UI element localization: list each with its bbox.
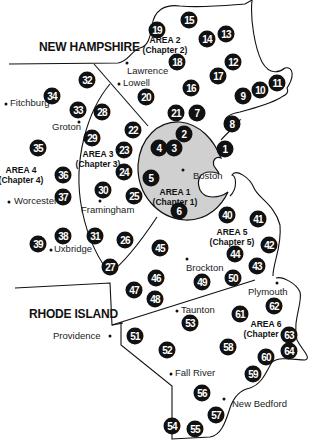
town-dot-uxbridge [50,249,53,252]
site-marker-20[interactable]: 20 [138,89,155,106]
massachusetts-region-map: NEW HAMPSHIRE RHODE ISLAND AREA 2(Chapte… [0,0,318,442]
area-label-4: AREA 4(Chapter 4) [0,166,43,186]
town-label-brockton: Brockton [186,263,224,273]
town-dot-fitchburg [5,103,8,106]
site-marker-56[interactable]: 56 [194,385,211,402]
site-marker-42[interactable]: 42 [261,237,278,254]
site-marker-63[interactable]: 63 [281,327,298,344]
town-label-providence: Providence [53,331,101,341]
town-dot-framingham [99,200,102,203]
site-marker-50[interactable]: 50 [225,270,242,287]
site-marker-64[interactable]: 64 [281,343,298,360]
area-label-3: AREA 3(Chapter 3) [76,150,121,170]
site-marker-59[interactable]: 59 [245,366,262,383]
site-marker-41[interactable]: 41 [250,211,267,228]
town-label-framingham: Framingham [81,205,134,215]
site-marker-24[interactable]: 24 [116,164,133,181]
town-dot-lowell [118,83,121,86]
site-marker-11[interactable]: 11 [269,75,286,92]
site-marker-62[interactable]: 62 [266,298,283,315]
site-marker-13[interactable]: 13 [218,26,235,43]
town-label-plymouth: Plymouth [248,287,288,297]
site-marker-57[interactable]: 57 [208,407,225,424]
town-label-worcester: Worcester [14,196,57,206]
site-marker-51[interactable]: 51 [127,328,144,345]
site-marker-29[interactable]: 29 [84,130,101,147]
state-label-rhode-island: RHODE ISLAND [29,307,118,321]
area-label-2: AREA 2(Chapter 2) [143,36,188,56]
site-marker-9[interactable]: 9 [235,88,252,105]
site-marker-58[interactable]: 58 [220,339,237,356]
town-dot-boston [182,169,185,172]
site-marker-49[interactable]: 49 [194,274,211,291]
town-label-boston: Boston [193,171,223,181]
site-marker-60[interactable]: 60 [258,349,275,366]
site-marker-55[interactable]: 55 [187,421,204,438]
town-label-lowell: Lowell [123,78,150,88]
site-marker-26[interactable]: 26 [117,232,134,249]
site-marker-40[interactable]: 40 [219,207,236,224]
site-marker-37[interactable]: 37 [55,189,72,206]
site-marker-33[interactable]: 33 [70,102,87,119]
site-marker-3[interactable]: 3 [166,140,183,157]
site-marker-53[interactable]: 53 [182,315,199,332]
town-dot-taunton [176,310,179,313]
town-dot-providence [109,335,112,338]
state-label-new-hampshire: NEW HAMPSHIRE [39,40,140,54]
town-label-groton: Groton [52,122,81,132]
site-marker-45[interactable]: 45 [152,240,169,257]
site-marker-38[interactable]: 38 [55,228,72,245]
town-dot-brockton [186,258,189,261]
site-marker-15[interactable]: 15 [181,12,198,29]
site-marker-39[interactable]: 39 [30,236,47,253]
site-marker-12[interactable]: 12 [225,54,242,71]
town-dot-new-bedford [223,398,226,401]
site-marker-10[interactable]: 10 [252,82,269,99]
site-marker-28[interactable]: 28 [94,104,111,121]
site-marker-6[interactable]: 6 [171,203,188,220]
site-marker-46[interactable]: 46 [148,270,165,287]
site-marker-25[interactable]: 25 [126,188,143,205]
town-label-lawrence: Lawrence [127,66,168,76]
site-marker-31[interactable]: 31 [87,228,104,245]
site-marker-14[interactable]: 14 [199,31,216,48]
site-marker-52[interactable]: 52 [159,342,176,359]
site-marker-7[interactable]: 7 [189,105,206,122]
site-marker-4[interactable]: 4 [151,140,168,157]
site-marker-54[interactable]: 54 [164,418,181,435]
site-marker-5[interactable]: 5 [143,170,160,187]
site-marker-35[interactable]: 35 [30,140,47,157]
area-label-5: AREA 5(Chapter 5) [210,228,255,248]
town-label-uxbridge: Uxbridge [54,244,92,254]
town-label-taunton: Taunton [181,305,215,315]
town-dot-worcester [8,201,11,204]
site-marker-30[interactable]: 30 [95,182,112,199]
site-marker-19[interactable]: 19 [149,22,166,39]
site-marker-32[interactable]: 32 [79,72,96,89]
new-hampshire-border [9,0,252,64]
site-marker-34[interactable]: 34 [44,88,61,105]
town-label-new-bedford: New Bedford [232,399,287,409]
town-dot-fall-river [170,373,173,376]
site-marker-17[interactable]: 17 [210,68,227,85]
site-marker-48[interactable]: 48 [147,291,164,308]
town-dot-plymouth [276,282,279,285]
site-marker-47[interactable]: 47 [126,282,143,299]
site-marker-8[interactable]: 8 [224,116,241,133]
site-marker-1[interactable]: 1 [217,141,234,158]
site-marker-61[interactable]: 61 [232,306,249,323]
site-marker-16[interactable]: 16 [183,80,200,97]
site-marker-21[interactable]: 21 [168,105,185,122]
site-marker-23[interactable]: 23 [116,142,133,159]
site-marker-44[interactable]: 44 [227,246,244,263]
site-marker-18[interactable]: 18 [169,54,186,71]
site-marker-43[interactable]: 43 [249,258,266,275]
site-marker-27[interactable]: 27 [102,259,119,276]
town-label-fall-river: Fall River [175,368,215,378]
site-marker-36[interactable]: 36 [55,167,72,184]
site-marker-22[interactable]: 22 [125,122,142,139]
